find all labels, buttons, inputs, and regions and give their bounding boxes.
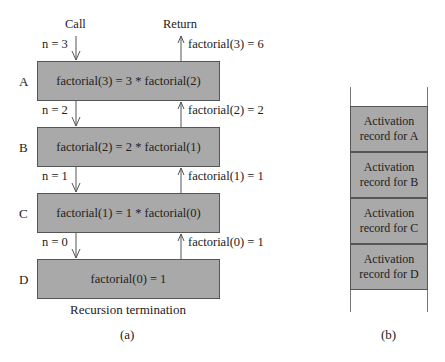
record-line1: Activation xyxy=(364,114,415,129)
frame-expr-d: factorial(0) = 1 xyxy=(91,272,167,287)
activation-record-b: Activation record for B xyxy=(350,152,428,198)
recursion-termination-label: Recursion termination xyxy=(70,303,186,317)
caption-b: (b) xyxy=(381,328,396,342)
record-line2: record for A xyxy=(360,129,419,144)
call-arg-c: n = 1 xyxy=(42,169,68,183)
frame-box-b: factorial(2) = 2 * factorial(1) xyxy=(37,127,220,167)
frame-expr-a: factorial(3) = 3 * factorial(2) xyxy=(56,74,200,89)
frame-expr-b: factorial(2) = 2 * factorial(1) xyxy=(56,140,200,155)
record-line2: record for C xyxy=(360,221,419,236)
activation-record-d: Activation record for D xyxy=(350,244,428,290)
record-line1: Activation xyxy=(364,160,415,175)
return-val-d: factorial(0) = 1 xyxy=(188,235,264,249)
call-header: Call xyxy=(65,17,86,31)
frame-box-d: factorial(0) = 1 xyxy=(37,259,220,299)
record-line1: Activation xyxy=(364,206,415,221)
record-line1: Activation xyxy=(364,252,415,267)
frame-box-c: factorial(1) = 1 * factorial(0) xyxy=(37,193,220,233)
record-line2: record for D xyxy=(359,267,418,282)
frame-label-d: D xyxy=(19,272,28,288)
return-val-a: factorial(3) = 6 xyxy=(188,37,264,51)
record-line2: record for B xyxy=(360,175,419,190)
return-val-b: factorial(2) = 2 xyxy=(188,103,264,117)
frame-label-b: B xyxy=(19,140,28,156)
activation-record-c: Activation record for C xyxy=(350,198,428,244)
return-val-c: factorial(1) = 1 xyxy=(188,169,264,183)
frame-box-a: factorial(3) = 3 * factorial(2) xyxy=(37,61,220,101)
return-header: Return xyxy=(163,17,197,31)
call-arg-d: n = 0 xyxy=(42,235,68,249)
frame-label-a: A xyxy=(19,74,28,90)
activation-record-a: Activation record for A xyxy=(350,106,428,152)
frame-expr-c: factorial(1) = 1 * factorial(0) xyxy=(56,206,200,221)
caption-a: (a) xyxy=(120,328,134,342)
frame-label-c: C xyxy=(19,206,28,222)
call-arg-a: n = 3 xyxy=(42,37,68,51)
call-arg-b: n = 2 xyxy=(42,103,68,117)
